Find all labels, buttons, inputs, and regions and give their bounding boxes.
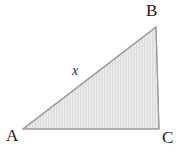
vertex-label-c: C [162, 129, 173, 146]
side-length-label-x: x [72, 64, 78, 78]
triangle-diagram-figure: A B C x [0, 0, 189, 154]
vertex-label-b: B [146, 2, 157, 19]
triangle-svg-canvas [0, 0, 189, 154]
vertex-label-a: A [6, 127, 18, 144]
